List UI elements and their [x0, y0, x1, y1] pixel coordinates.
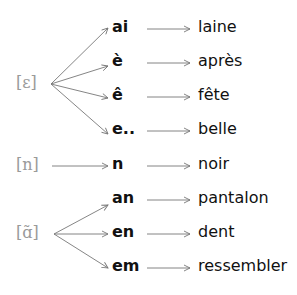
phoneme-label: [ɛ] — [16, 73, 37, 93]
example-word: laine — [198, 17, 237, 37]
example-word: pantalon — [198, 188, 269, 208]
grapheme: ê — [112, 85, 123, 105]
example-word: noir — [198, 154, 229, 174]
arrow-lines — [0, 0, 297, 295]
example-word: dent — [198, 222, 234, 242]
phoneme-label: [ɑ̃] — [16, 223, 39, 243]
grapheme: ai — [112, 17, 128, 37]
example-word: belle — [198, 119, 237, 139]
grapheme: e.. — [112, 119, 135, 139]
arrow-icon — [51, 28, 108, 84]
arrow-icon — [54, 205, 108, 234]
arrow-icon — [54, 234, 108, 268]
grapheme: è — [112, 51, 123, 71]
example-word: après — [198, 51, 242, 71]
grapheme: an — [112, 188, 134, 208]
grapheme: n — [112, 154, 123, 174]
arrow-icon — [51, 84, 108, 134]
phoneme-label: [n] — [16, 155, 39, 175]
grapheme: en — [112, 222, 134, 242]
example-word: ressembler — [198, 256, 287, 276]
grapheme: em — [112, 256, 140, 276]
example-word: fête — [198, 85, 230, 105]
